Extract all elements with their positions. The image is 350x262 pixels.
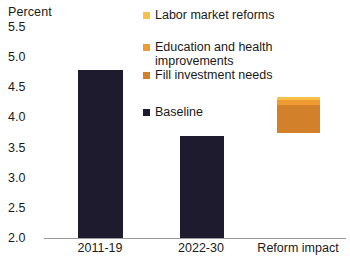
legend-item-label: Labor market reforms	[155, 8, 274, 22]
legend-swatch-icon	[143, 44, 150, 51]
y-axis-tick-3-5: 3.5	[8, 141, 25, 155]
y-axis-tick-2-0: 2.0	[8, 231, 25, 245]
legend-item-labor-market-reforms[interactable]: Labor market reforms	[143, 8, 274, 22]
bar-2011-19	[78, 70, 123, 238]
y-axis-tick-3-0: 3.0	[8, 171, 25, 185]
legend-swatch-icon	[143, 109, 150, 116]
bar-chart: Percent 5.55.04.54.03.53.02.52.0 2011-19…	[0, 0, 350, 262]
legend-swatch-icon	[143, 72, 150, 79]
y-axis-tick-2-5: 2.5	[8, 201, 25, 215]
bar-reform-impact	[277, 97, 320, 133]
legend-item-label: Fill investment needs	[155, 68, 272, 82]
y-axis-tick-5-5: 5.5	[8, 20, 25, 34]
y-axis-tick-5-0: 5.0	[8, 50, 25, 64]
y-axis-title: Percent	[8, 5, 52, 19]
x-axis-label-reform-impact: Reform impact	[238, 241, 350, 255]
x-axis-line	[44, 238, 346, 239]
bar-segment-fill-investment-needs	[277, 105, 320, 133]
bar-2022-30	[180, 136, 224, 238]
legend-item-fill-investment-needs[interactable]: Fill investment needs	[143, 68, 272, 82]
y-axis-tick-4-5: 4.5	[8, 80, 25, 94]
y-axis-tick-4-0: 4.0	[8, 110, 25, 124]
legend-item-education-and-health[interactable]: Education and health improvements	[143, 40, 272, 68]
legend-item-label: Baseline	[155, 105, 203, 119]
legend-item-baseline[interactable]: Baseline	[143, 105, 203, 119]
legend-item-label: Education and health improvements	[155, 40, 272, 68]
legend-swatch-icon	[143, 12, 150, 19]
